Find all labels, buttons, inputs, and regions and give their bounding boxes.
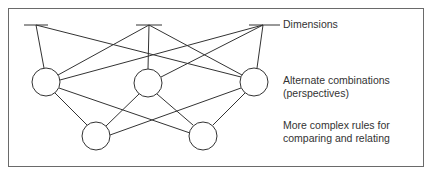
edge (257, 25, 263, 68)
edge (157, 94, 193, 125)
perspectives-text-line2: (perspectives) (283, 87, 390, 100)
dimensions-label: Dimensions (283, 18, 338, 31)
perspectives-text-line1: Alternate combinations (283, 74, 390, 87)
perspectives-label: Alternate combinations (perspectives) (283, 74, 390, 100)
rule-node-1 (82, 122, 110, 150)
perspective-node-3 (240, 68, 268, 96)
edge (60, 25, 263, 80)
edge (213, 93, 245, 125)
perspective-node-1 (32, 68, 60, 96)
perspective-node-2 (134, 69, 162, 97)
edge (55, 93, 87, 125)
edge (148, 25, 149, 69)
dimensions-text: Dimensions (283, 18, 338, 30)
rules-label: More complex rules for comparing and rel… (283, 119, 390, 145)
edge (36, 25, 44, 68)
edge (36, 25, 241, 77)
rules-text-line2: comparing and relating (283, 132, 390, 145)
rules-text-line1: More complex rules for (283, 119, 390, 132)
edge (106, 94, 139, 126)
edge (149, 25, 242, 75)
edge (59, 88, 190, 133)
rule-node-2 (189, 122, 217, 150)
